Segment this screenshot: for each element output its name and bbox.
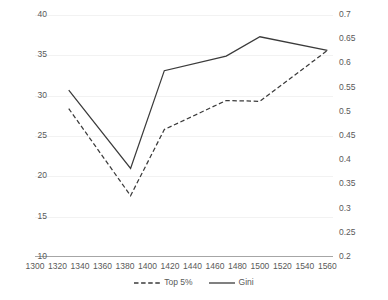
legend-entry-top-5[interactable]: Top 5% bbox=[134, 278, 192, 287]
plot-area bbox=[35, 15, 333, 257]
y-axis-right-tick-label: 0.55 bbox=[339, 83, 383, 92]
y-axis-right-tick-label: 0.5 bbox=[339, 107, 383, 116]
y-axis-right-tick-label: 0.7 bbox=[339, 10, 383, 19]
y-axis-right-tick-label: 0.6 bbox=[339, 58, 383, 67]
x-axis-tick-label: 1560 bbox=[307, 262, 347, 271]
legend-label: Gini bbox=[239, 278, 254, 287]
y-axis-right-tick-label: 0.3 bbox=[339, 204, 383, 213]
y-axis-right-tick-label: 0.25 bbox=[339, 228, 383, 237]
legend-swatch-solid-icon bbox=[209, 279, 235, 287]
series-layer bbox=[35, 15, 333, 257]
chart-legend: Top 5%Gini bbox=[0, 278, 388, 287]
y-axis-left-tick-label: 40 bbox=[7, 10, 47, 19]
legend-entry-gini[interactable]: Gini bbox=[209, 278, 254, 287]
series-line-gini bbox=[69, 37, 328, 169]
y-axis-right-tick-label: 0.45 bbox=[339, 131, 383, 140]
y-axis-right-tick-label: 0.35 bbox=[339, 179, 383, 188]
y-axis-left-tick-label: 30 bbox=[7, 91, 47, 100]
y-axis-left-tick-label: 10 bbox=[7, 252, 47, 261]
legend-label: Top 5% bbox=[164, 278, 192, 287]
y-axis-left-tick-label: 15 bbox=[7, 212, 47, 221]
y-axis-left-tick-label: 25 bbox=[7, 131, 47, 140]
series-line-top-5-percent bbox=[69, 50, 328, 195]
y-axis-right-tick-label: 0.2 bbox=[339, 252, 383, 261]
legend-swatch-dashed-icon bbox=[134, 279, 160, 287]
y-axis-right-tick-label: 0.65 bbox=[339, 34, 383, 43]
y-axis-left-tick-label: 20 bbox=[7, 171, 47, 180]
chart-container: 10152025303540 0.20.250.30.350.40.450.50… bbox=[0, 0, 388, 300]
y-axis-left-tick-label: 35 bbox=[7, 50, 47, 59]
y-axis-right-tick-label: 0.4 bbox=[339, 155, 383, 164]
